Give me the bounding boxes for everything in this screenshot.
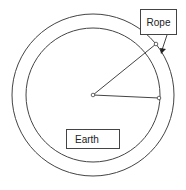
- earth-label: Earth: [66, 129, 120, 149]
- rope-label-text: Rope: [147, 17, 171, 28]
- point-right: [157, 96, 161, 100]
- rope-label: Rope: [140, 9, 177, 35]
- earth-rope-diagram: Rope Earth: [0, 0, 186, 190]
- rope-pointer-line: [162, 35, 167, 50]
- rope-arrowhead-icon: [160, 48, 166, 54]
- radius-line-top: [93, 44, 156, 95]
- center-point: [91, 93, 95, 97]
- radius-line-right: [93, 95, 159, 98]
- point-top: [154, 42, 158, 46]
- earth-label-text: Earth: [75, 134, 99, 145]
